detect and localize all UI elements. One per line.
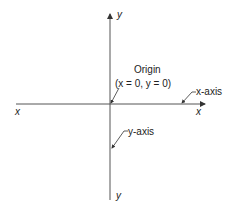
axes-drawing <box>0 0 238 213</box>
origin-label: Origin <box>134 65 161 75</box>
origin-coords-label: (x = 0, y = 0) <box>115 79 171 89</box>
x-axis-pointer-arrow <box>182 92 196 103</box>
x-left-label: x <box>15 107 20 117</box>
y-bottom-label: y <box>116 191 121 201</box>
y-axis-annotation: y-axis <box>128 127 154 137</box>
y-axis-pointer-arrow <box>112 131 128 148</box>
y-top-label: y <box>117 10 122 20</box>
origin-pointer-arrow <box>111 88 119 103</box>
x-axis-annotation: x-axis <box>196 87 222 97</box>
x-right-label: x <box>196 107 201 117</box>
